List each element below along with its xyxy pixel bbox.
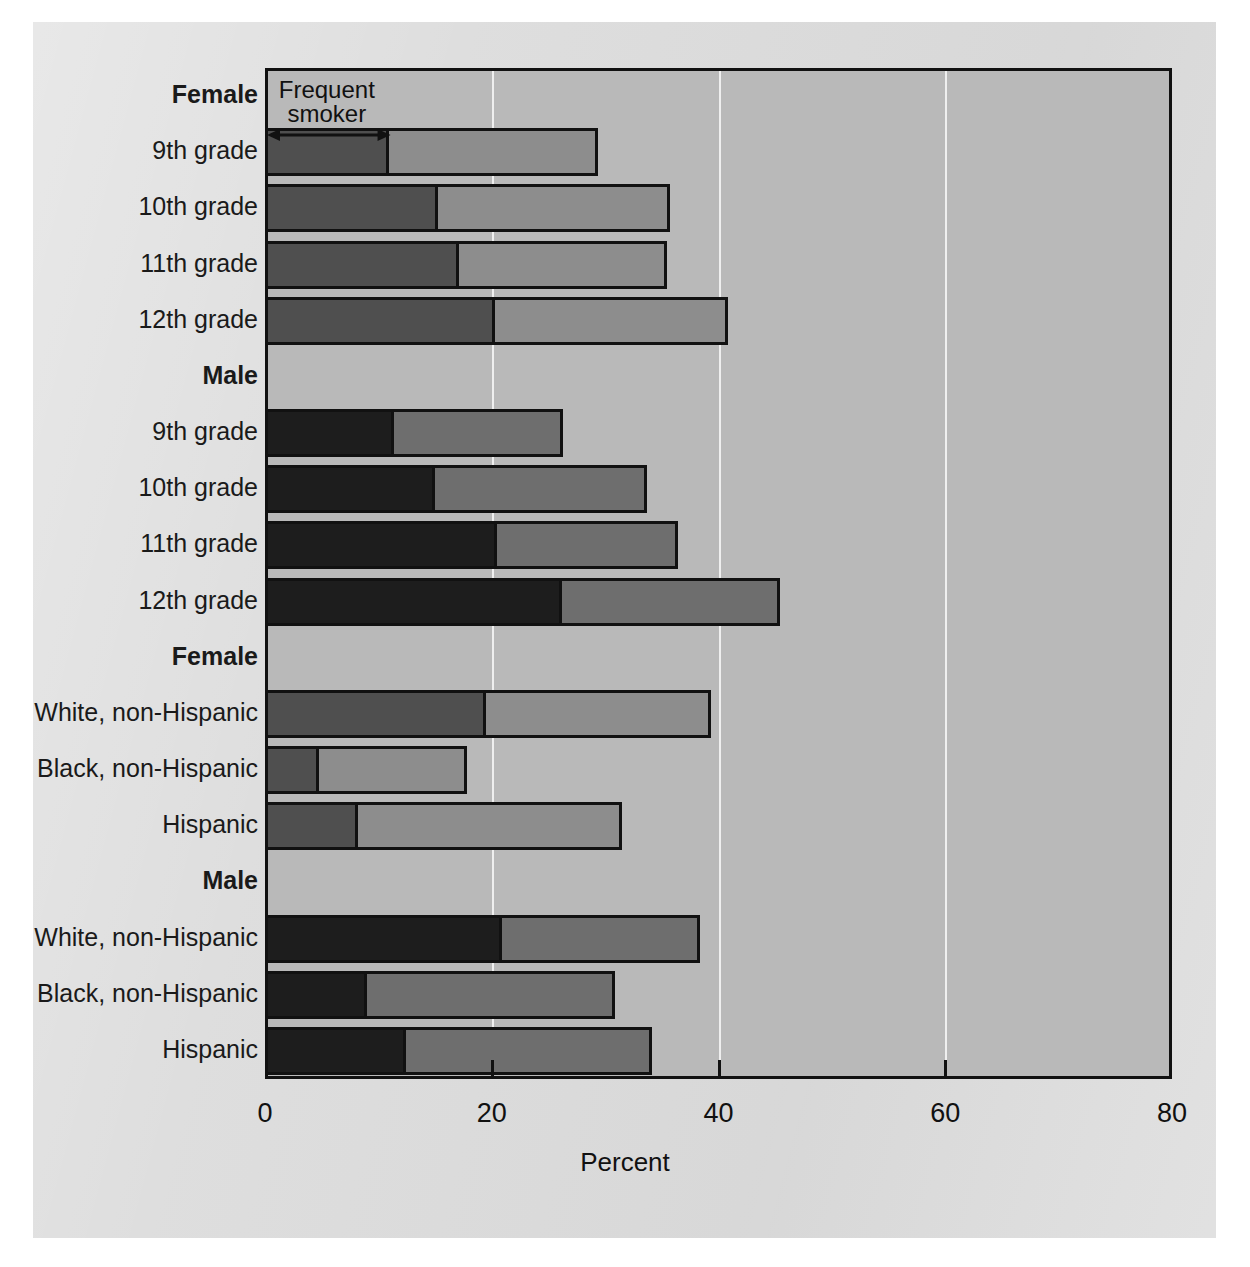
stacked-bar-row [265, 465, 1172, 513]
x-tick-20 [491, 1060, 494, 1076]
x-tick-label-20: 20 [477, 1100, 507, 1127]
bar-segment-remainder [355, 802, 622, 850]
category-label: White, non-Hispanic [0, 700, 258, 725]
stacked-bar-row [265, 184, 1172, 232]
category-label: 12th grade [0, 588, 258, 613]
x-tick-label-80: 80 [1157, 1100, 1187, 1127]
bar-segment-frequent-smoker [265, 971, 367, 1019]
bar-segment-frequent-smoker [265, 409, 394, 457]
bar-segment-remainder [494, 521, 677, 569]
x-tick-label-0: 0 [257, 1100, 272, 1127]
category-label: 11th grade [0, 251, 258, 276]
bar-segment-remainder [403, 1027, 652, 1075]
category-label: 10th grade [0, 194, 258, 219]
bar-segment-remainder [386, 128, 599, 176]
stacked-bar-row [265, 409, 1172, 457]
frequent-smoker-line2: smoker [265, 102, 389, 126]
category-label: Black, non-Hispanic [0, 981, 258, 1006]
bar-segment-remainder [432, 465, 647, 513]
bar-segment-remainder [499, 915, 700, 963]
bar-segment-remainder [492, 297, 727, 345]
bar-segment-frequent-smoker [265, 915, 502, 963]
chart-figure: Female9th grade10th grade11th grade12th … [0, 0, 1250, 1267]
x-tick-40 [718, 1060, 721, 1076]
bar-segment-remainder [456, 241, 668, 289]
group-header-label: Female [0, 82, 258, 107]
bar-segment-frequent-smoker [265, 241, 459, 289]
bar-segment-remainder [391, 409, 563, 457]
bar-segment-frequent-smoker [265, 465, 435, 513]
stacked-bar-row [265, 241, 1172, 289]
stacked-bar-row [265, 578, 1172, 626]
category-label: Black, non-Hispanic [0, 756, 258, 781]
stacked-bar-row [265, 521, 1172, 569]
x-tick-60 [944, 1060, 947, 1076]
bar-segment-frequent-smoker [265, 690, 486, 738]
group-header-label: Male [0, 868, 258, 893]
bar-segment-frequent-smoker [265, 184, 438, 232]
group-header-label: Female [0, 644, 258, 669]
frequent-smoker-line1: Frequent [265, 78, 389, 102]
x-axis-title: Percent [0, 1147, 1250, 1178]
bar-segment-remainder [364, 971, 615, 1019]
bar-segment-frequent-smoker [265, 1027, 406, 1075]
stacked-bar-row [265, 297, 1172, 345]
bar-segment-remainder [435, 184, 669, 232]
bar-segment-frequent-smoker [265, 521, 497, 569]
category-label: 11th grade [0, 531, 258, 556]
stacked-bar-row [265, 690, 1172, 738]
frequent-smoker-annotation: Frequent smoker [265, 78, 389, 127]
stacked-bar-row [265, 746, 1172, 794]
bar-segment-remainder [316, 746, 466, 794]
bar-segment-remainder [483, 690, 710, 738]
category-label: 9th grade [0, 138, 258, 163]
category-label: 12th grade [0, 307, 258, 332]
category-label: Hispanic [0, 1037, 258, 1062]
category-label: Hispanic [0, 812, 258, 837]
category-label: White, non-Hispanic [0, 925, 258, 950]
stacked-bar-row [265, 971, 1172, 1019]
category-labels: Female9th grade10th grade11th grade12th … [0, 68, 258, 1079]
x-tick-label-40: 40 [703, 1100, 733, 1127]
frequent-smoker-double-arrow [267, 128, 391, 142]
bar-segment-frequent-smoker [265, 746, 319, 794]
group-header-label: Male [0, 363, 258, 388]
bar-segment-frequent-smoker [265, 802, 358, 850]
stacked-bar-row [265, 802, 1172, 850]
bars-layer [265, 68, 1172, 1079]
x-tick-label-60: 60 [930, 1100, 960, 1127]
category-label: 10th grade [0, 475, 258, 500]
category-label: 9th grade [0, 419, 258, 444]
bar-segment-frequent-smoker [265, 578, 562, 626]
stacked-bar-row [265, 128, 1172, 176]
bar-segment-remainder [559, 578, 780, 626]
bar-segment-frequent-smoker [265, 297, 495, 345]
stacked-bar-row [265, 915, 1172, 963]
